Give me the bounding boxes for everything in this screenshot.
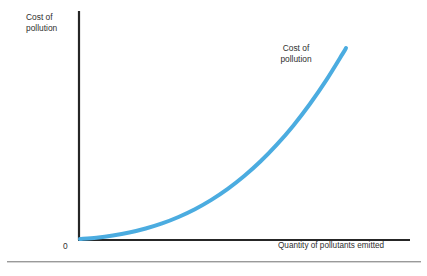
- chart-canvas: [0, 0, 427, 258]
- plot-surface: Cost of pollution Cost of pollution Quan…: [0, 0, 427, 258]
- x-axis-title: Quantity of pollutants emitted: [278, 241, 410, 252]
- cost-of-pollution-curve: [80, 48, 346, 239]
- curve-annotation-label: Cost of pollution: [268, 43, 324, 64]
- origin-tick-label: 0: [63, 241, 75, 252]
- figure-divider-rule-shadow: [7, 262, 421, 263]
- chart-figure: Cost of pollution rises as pollutants em…: [0, 0, 427, 276]
- y-axis-title: Cost of pollution: [26, 12, 72, 33]
